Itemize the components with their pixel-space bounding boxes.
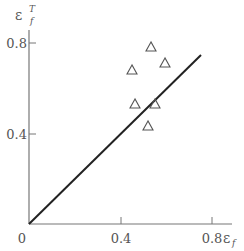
data-point <box>127 65 137 74</box>
data-point <box>146 42 156 51</box>
y-axis-label-subscript: f <box>29 16 35 26</box>
x-axis-label: ε <box>223 230 230 246</box>
y-axis-label: ε <box>15 7 22 23</box>
x-tick-label-04: 0.4 <box>111 231 132 246</box>
y-tick-label-08: 0.8 <box>6 36 27 51</box>
data-point <box>160 58 170 67</box>
y-axis-label-superscript: T <box>29 4 36 14</box>
scatter-chart: 0.8 0.4 0 0.4 0.8 ε f ε T f <box>0 0 244 251</box>
y-tick-label-04: 0.4 <box>6 127 27 142</box>
data-points <box>127 42 170 130</box>
reference-line <box>29 55 201 224</box>
data-point <box>143 121 153 130</box>
x-axis-label-subscript: f <box>231 238 237 248</box>
data-point <box>130 99 140 108</box>
x-tick-label-08: 0.8 <box>202 231 223 246</box>
origin-label: 0 <box>18 231 26 246</box>
